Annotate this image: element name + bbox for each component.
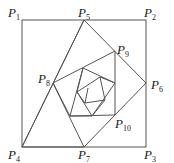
label-p2: P2 [144,6,156,22]
label-p4: P4 [8,148,20,163]
inner-spiral-end [85,88,88,103]
spiral-diagram [0,0,174,163]
inner-polygon-5 [77,92,105,103]
label-p10: P10 [115,117,131,133]
inner-polygon-3 [77,77,115,92]
inner-polygon-2 [77,68,92,116]
label-p7: P7 [78,148,90,163]
label-p8: P8 [38,72,50,88]
label-p6: P6 [151,78,163,94]
label-p3: P3 [144,148,156,163]
label-p1: P1 [8,6,20,22]
label-p9: P9 [117,43,129,59]
label-p5: P5 [78,6,90,22]
inner-polygon-4 [92,77,105,116]
